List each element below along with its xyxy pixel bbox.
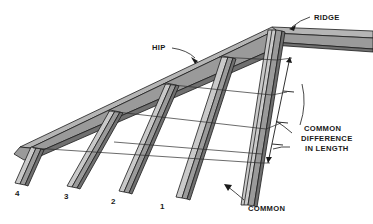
label-jack-rafter-1: 1 bbox=[160, 202, 165, 211]
label-common-difference-line2: DIFFERENCE bbox=[301, 134, 353, 143]
label-ridge: RIDGE bbox=[314, 13, 340, 22]
roof-framing-diagram: RIDGE HIP COMMON COMMON DIFFERENCE IN LE… bbox=[0, 0, 373, 224]
label-jack-rafter-3: 3 bbox=[64, 192, 69, 201]
label-common-difference-line1: COMMON bbox=[304, 124, 341, 133]
label-common-difference-line3: IN LENGTH bbox=[305, 144, 349, 153]
label-jack-rafter-2: 2 bbox=[111, 197, 116, 206]
diagram-canvas: RIDGE HIP COMMON COMMON DIFFERENCE IN LE… bbox=[0, 0, 373, 224]
ridge-beam bbox=[272, 27, 373, 52]
label-hip: HIP bbox=[152, 43, 166, 52]
label-common: COMMON bbox=[248, 204, 285, 213]
label-jack-rafter-4: 4 bbox=[15, 189, 20, 198]
